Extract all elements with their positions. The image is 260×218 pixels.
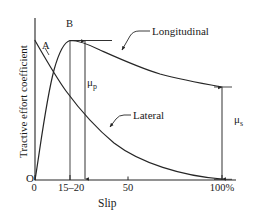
longitudinal-curve — [35, 41, 222, 181]
longitudinal-leader-line — [122, 31, 150, 50]
mu-p-subscript: p — [93, 82, 97, 91]
x-tick-label-15-20: 15–20 — [52, 183, 90, 194]
mu-s-label: μs — [234, 114, 243, 128]
lateral-curve — [35, 41, 222, 180]
lateral-series-label: Lateral — [133, 110, 164, 121]
x-axis-label: Slip — [98, 198, 117, 210]
longitudinal-series-label: Longitudinal — [152, 26, 209, 37]
mu-s-subscript: s — [240, 119, 243, 128]
point-a-label: A — [42, 41, 50, 52]
mu-p-label: μp — [87, 77, 97, 91]
y-axis-label: Tractive effort coefficient — [18, 32, 29, 172]
x-tick-label-50: 50 — [118, 183, 138, 194]
x-tick-label-0: 0 — [28, 183, 40, 194]
lateral-leader-line — [110, 115, 131, 127]
x-tick-label-100: 100% — [203, 183, 241, 194]
point-b-label: B — [66, 19, 73, 30]
tractive-effort-slip-chart: Tractive effort coefficient Slip O 0 15–… — [0, 0, 260, 218]
